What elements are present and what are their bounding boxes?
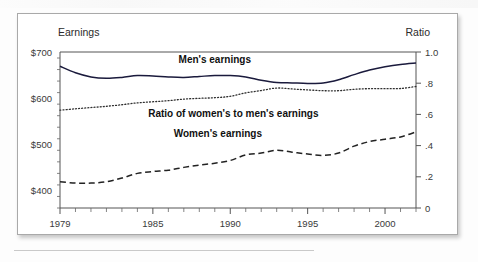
right-axis-tick-label: 0 bbox=[425, 203, 430, 214]
right-axis-tick-label: .2 bbox=[425, 171, 433, 182]
series-label: Men's earnings bbox=[179, 54, 252, 65]
right-axis-tick-label: 1.0 bbox=[425, 47, 438, 58]
x-axis-tick-label: 2000 bbox=[374, 218, 395, 229]
series-label: Ratio of women's to men's earnings bbox=[148, 108, 319, 119]
left-axis-tick-label: $600 bbox=[31, 93, 52, 104]
series-line-solid bbox=[60, 63, 416, 83]
left-axis-tick-label: $400 bbox=[31, 185, 52, 196]
x-axis-tick-label: 1995 bbox=[297, 218, 318, 229]
earnings-ratio-line-chart: $400$500$600$7000.2.4.6.81.0197919851990… bbox=[18, 14, 457, 234]
left-axis-title: Earnings bbox=[58, 26, 99, 38]
x-axis-tick-label: 1990 bbox=[220, 218, 241, 229]
scan-artifact-band bbox=[0, 0, 478, 8]
right-axis-tick-label: .4 bbox=[425, 140, 433, 151]
right-axis-tick-label: .8 bbox=[425, 78, 433, 89]
series-line-dashed bbox=[60, 132, 416, 183]
left-axis-tick-label: $500 bbox=[31, 139, 52, 150]
page-background: $400$500$600$7000.2.4.6.81.0197919851990… bbox=[0, 0, 478, 262]
series-label: Women's earnings bbox=[174, 128, 263, 139]
x-axis-tick-label: 1979 bbox=[49, 218, 70, 229]
page-divider-rule bbox=[14, 250, 314, 251]
right-axis-tick-label: .6 bbox=[425, 109, 433, 120]
left-axis-tick-label: $700 bbox=[31, 47, 52, 58]
series-line-dotted bbox=[60, 86, 416, 110]
chart-card: $400$500$600$7000.2.4.6.81.0197919851990… bbox=[17, 13, 458, 235]
right-axis-title: Ratio bbox=[405, 26, 430, 38]
x-axis-tick-label: 1985 bbox=[142, 218, 163, 229]
